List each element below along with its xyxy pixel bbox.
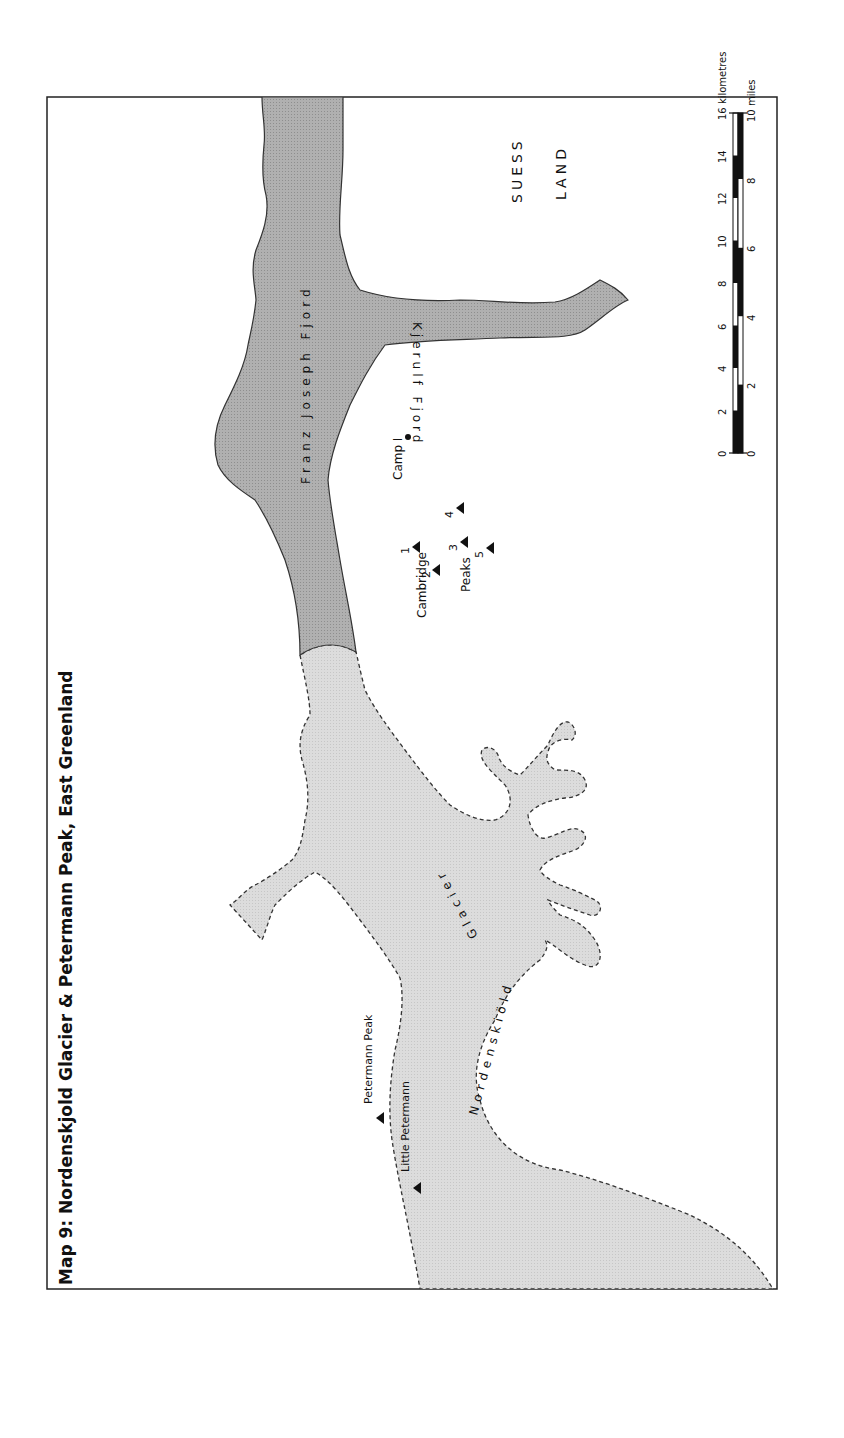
km-tick-14: 14 — [717, 150, 728, 163]
map-title: Map 9: Nordenskjold Glacier & Petermann … — [56, 671, 76, 1286]
mile-tick-4: 4 — [746, 315, 757, 321]
peak-3-number: 3 — [447, 544, 460, 551]
km-tick-10: 10 — [717, 235, 728, 248]
miles-label: 10 miles — [746, 79, 757, 122]
land-label: LAND — [553, 145, 569, 200]
km-tick-2: 2 — [717, 409, 728, 415]
peak-1-number: 1 — [399, 547, 412, 554]
peak-4-number: 4 — [443, 511, 456, 518]
mile-tick-8: 8 — [746, 178, 757, 184]
mile-tick-2: 2 — [746, 383, 757, 389]
franz-joseph-fjord-label: Franz Joseph Fjord — [299, 284, 313, 484]
kjerulf-fjord-label: Kjerulf Fjord — [410, 322, 424, 446]
km-label: 16 kilometres — [717, 52, 728, 120]
petermann-peak-label: Petermann Peak — [362, 1014, 375, 1104]
km-tick-8: 8 — [717, 281, 728, 287]
camp-label: Camp I — [391, 438, 405, 480]
cambridge-label: Cambridge — [415, 552, 429, 618]
mile-tick-6: 6 — [746, 246, 757, 252]
peaks-label: Peaks — [459, 557, 473, 592]
camp-marker — [405, 434, 411, 440]
map-canvas: Map 9: Nordenskjold Glacier & Petermann … — [0, 0, 844, 1438]
km-tick-4: 4 — [717, 366, 728, 372]
peak-5-number: 5 — [473, 551, 486, 558]
little-petermann-label: Little Petermann — [399, 1081, 412, 1172]
mile-tick-0: 0 — [746, 451, 757, 457]
km-tick-12: 12 — [717, 192, 728, 205]
suess-label: SUESS — [509, 137, 525, 203]
km-tick-6: 6 — [717, 324, 728, 330]
km-tick-0: 0 — [717, 451, 728, 457]
